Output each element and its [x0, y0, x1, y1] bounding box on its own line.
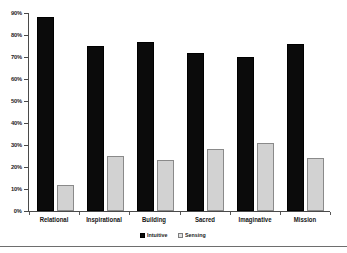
bar-sensing-mission	[307, 158, 324, 211]
bottom-divider	[0, 246, 347, 247]
x-axis-tick-label: Mission	[294, 216, 316, 224]
plot-wrapper: 0%10%20%30%40%50%60%70%80%90% Relational…	[0, 0, 347, 216]
bar-sensing-building	[157, 160, 174, 211]
y-axis-tick-label: 0%	[14, 208, 22, 214]
legend-label: Sensing	[185, 232, 206, 238]
bar-group	[180, 13, 230, 211]
bar-intuitive-mission	[287, 44, 304, 211]
chart-legend: IntuitiveSensing	[0, 230, 347, 240]
x-axis-tick-label: Relational	[40, 216, 69, 224]
bar-intuitive-building	[137, 42, 154, 211]
x-axis-tick-mark	[29, 212, 30, 215]
y-axis-tick-labels: 0%10%20%30%40%50%60%70%80%90%	[0, 0, 24, 216]
bar-group	[280, 13, 330, 211]
x-axis-category-labels: RelationalInspirationalBuildingSacredIma…	[29, 216, 330, 228]
x-axis-tick-mark	[330, 212, 331, 215]
legend-swatch-sensing-icon	[178, 233, 183, 238]
y-axis-tick-label: 30%	[11, 142, 22, 148]
bar-group	[129, 13, 179, 211]
legend-item-sensing[interactable]: Sensing	[178, 232, 207, 238]
x-axis-tick-mark	[280, 212, 281, 215]
bar-group	[79, 13, 129, 211]
bar-intuitive-relational	[37, 17, 54, 211]
legend-label: Intuitive	[147, 232, 167, 238]
legend-swatch-intuitive-icon	[140, 233, 145, 238]
bar-group	[29, 13, 79, 211]
y-axis-tick-label: 60%	[11, 76, 22, 82]
bar-intuitive-sacred	[187, 53, 204, 211]
x-axis-tick-label: Building	[142, 216, 166, 224]
y-axis-tick-label: 80%	[11, 32, 22, 38]
bar-group	[230, 13, 280, 211]
y-axis-tick-label: 70%	[11, 54, 22, 60]
y-axis-tick-label: 10%	[11, 186, 22, 192]
x-axis-tick-mark	[230, 212, 231, 215]
y-axis-tick-label: 90%	[11, 10, 22, 16]
x-axis-tick-label: Sacred	[195, 216, 215, 224]
y-axis-tick-label: 40%	[11, 120, 22, 126]
y-axis-tick-label: 50%	[11, 98, 22, 104]
x-axis-tick-label: Imaginative	[238, 216, 271, 224]
bar-intuitive-inspirational	[87, 46, 104, 211]
bar-sensing-imaginative	[257, 143, 274, 211]
bar-sensing-sacred	[207, 149, 224, 211]
bar-intuitive-imaginative	[237, 57, 254, 211]
x-axis-tick-mark	[79, 212, 80, 215]
x-axis-tick-mark	[129, 212, 130, 215]
plot-area	[29, 13, 330, 211]
x-axis-tick-label: Inspirational	[86, 216, 122, 224]
bar-sensing-inspirational	[107, 156, 124, 211]
legend-item-intuitive[interactable]: Intuitive	[140, 232, 169, 238]
bar-chart-figure: 0%10%20%30%40%50%60%70%80%90% Relational…	[0, 0, 347, 253]
bar-sensing-relational	[57, 185, 74, 211]
y-axis-tick-label: 20%	[11, 164, 22, 170]
x-axis-tick-mark	[180, 212, 181, 215]
